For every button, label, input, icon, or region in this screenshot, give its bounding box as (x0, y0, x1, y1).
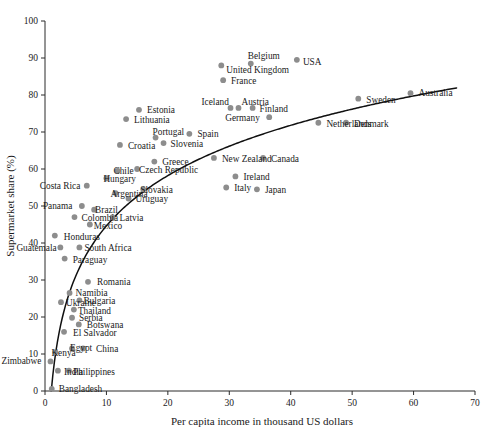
data-point-label: Romania (97, 277, 131, 287)
data-point-label: Germany (225, 113, 260, 123)
data-point-label: Namibia (76, 288, 108, 298)
y-axis-tick-label: 20 (29, 312, 39, 322)
scatter-chart-figure: 0102030405060708090100010203040506070 Ba… (0, 0, 498, 440)
data-point-label: France (231, 76, 256, 86)
data-point[interactable] (211, 155, 217, 161)
data-point-label: Spain (197, 129, 219, 139)
data-point-label: Lithuania (134, 115, 170, 125)
y-axis-tick-label: 70 (29, 127, 39, 137)
data-point-label: Italy (234, 183, 251, 193)
data-point-label: Paraguay (73, 255, 108, 265)
data-point-label: Portugal (153, 127, 185, 137)
data-point-label: Chile (114, 166, 134, 176)
data-point[interactable] (79, 203, 85, 209)
data-point-label: USA (303, 57, 322, 67)
data-point[interactable] (408, 90, 414, 96)
y-axis-tick-label: 90 (29, 53, 39, 63)
x-axis-tick-label: 40 (286, 398, 296, 408)
data-point[interactable] (61, 329, 67, 335)
scatter-plot-svg: 0102030405060708090100010203040506070 Ba… (0, 0, 498, 440)
data-point-label: Latvia (120, 213, 144, 223)
data-point-label: Zimbabwe (2, 356, 42, 366)
data-point[interactable] (57, 245, 63, 251)
x-axis-tick-label: 20 (163, 398, 173, 408)
data-point-label: Honduras (64, 232, 101, 242)
data-point[interactable] (62, 256, 68, 262)
y-axis-tick-label: 30 (29, 275, 39, 285)
data-point-label: Panama (43, 201, 72, 211)
y-axis-tick-label: 0 (33, 386, 38, 396)
data-point[interactable] (136, 107, 142, 113)
data-point[interactable] (220, 77, 226, 83)
data-point-label: Greece (162, 157, 188, 167)
x-axis-tick-label: 60 (409, 398, 419, 408)
data-labels-layer: BangladeshZimbabweIndiaPhilippinesKenyaE… (2, 51, 453, 394)
data-point[interactable] (218, 63, 224, 69)
data-point[interactable] (117, 142, 123, 148)
x-axis-tick-label: 50 (347, 398, 357, 408)
data-point-label: South Africa (84, 243, 131, 253)
data-point-label: Croatia (128, 141, 155, 151)
data-point-label: Estonia (147, 105, 175, 115)
data-point-label: Brazil (95, 205, 118, 215)
data-point[interactable] (84, 183, 90, 189)
data-point[interactable] (223, 185, 229, 191)
data-point[interactable] (55, 368, 61, 374)
data-point-label: Slovakia (140, 185, 173, 195)
data-point-label: United Kingdom (226, 65, 290, 75)
y-axis-tick-label: 100 (24, 16, 39, 26)
x-axis-title: Per capita income in thousand US dollars (171, 415, 353, 427)
data-point[interactable] (77, 245, 83, 251)
data-point[interactable] (186, 131, 192, 137)
data-point[interactable] (315, 120, 321, 126)
y-axis-title: Supermarket share (%) (4, 155, 17, 257)
data-point[interactable] (161, 140, 167, 146)
data-point-label: Canada (271, 154, 299, 164)
data-point[interactable] (355, 96, 361, 102)
y-axis-tick-label: 60 (29, 164, 39, 174)
x-axis-tick-label: 70 (470, 398, 480, 408)
data-point-label: Iceland (202, 97, 230, 107)
data-point-label: Costa Rica (40, 181, 81, 191)
data-point-label: Philippines (73, 367, 115, 377)
data-point-label: New Zealand (222, 154, 272, 164)
data-point[interactable] (72, 214, 78, 220)
y-axis-tick-label: 80 (29, 90, 39, 100)
data-point[interactable] (233, 174, 239, 180)
data-point[interactable] (52, 233, 58, 239)
data-point-label: China (96, 344, 118, 354)
y-axis-tick-label: 50 (29, 201, 39, 211)
data-point[interactable] (151, 159, 157, 165)
data-point-label: Japan (265, 185, 287, 195)
data-point-label: Bangladesh (59, 384, 103, 394)
data-point[interactable] (48, 359, 54, 365)
data-point[interactable] (67, 290, 73, 296)
data-point-label: Sweden (366, 95, 396, 105)
data-point[interactable] (58, 299, 64, 305)
data-point[interactable] (49, 386, 55, 392)
data-point-label: Guatemala (16, 243, 56, 253)
data-point[interactable] (266, 114, 272, 120)
data-point-label: Belgium (248, 51, 281, 61)
data-point-label: Ireland (243, 172, 270, 182)
data-point-label: Austria (242, 97, 269, 107)
x-axis-tick-label: 0 (43, 398, 48, 408)
data-point-label: Denmark (354, 119, 389, 129)
data-point-label: Australia (419, 88, 453, 98)
x-axis-tick-label: 10 (102, 398, 112, 408)
data-point[interactable] (123, 116, 129, 122)
data-point-label: Egypt (70, 343, 93, 353)
data-point[interactable] (254, 186, 260, 192)
data-point[interactable] (294, 57, 300, 63)
x-axis-tick-label: 30 (225, 398, 235, 408)
data-point[interactable] (85, 279, 91, 285)
data-point[interactable] (69, 315, 75, 321)
data-point-label: Slovenia (171, 139, 204, 149)
